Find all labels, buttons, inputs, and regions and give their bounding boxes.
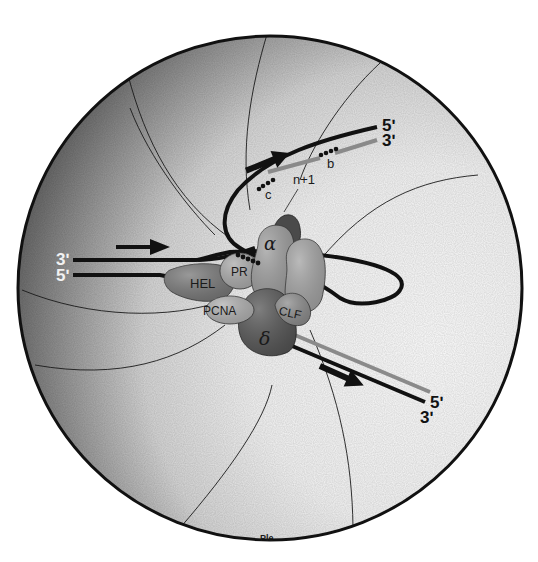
replication-fork-diagram: 3ʹ 5ʹ 5ʹ 3ʹ 5ʹ 3ʹ b c n+1 HEL PR α PCNA … xyxy=(0,0,538,562)
label-bottom-pole: Ple xyxy=(260,533,274,543)
label-hel: HEL xyxy=(190,276,215,291)
label-incoming-5prime: 5ʹ xyxy=(56,266,70,285)
label-delta: δ xyxy=(259,327,270,349)
label-pcna: PCNA xyxy=(203,304,236,318)
label-okazaki-c: c xyxy=(265,187,272,202)
label-alpha: α xyxy=(264,233,276,254)
label-pr: PR xyxy=(231,265,248,279)
label-top-3prime: 3ʹ xyxy=(382,131,396,150)
label-okazaki-b: b xyxy=(327,156,334,171)
label-bottom-3prime: 3ʹ xyxy=(420,408,434,427)
label-okazaki-n-plus-1: n+1 xyxy=(293,172,315,187)
